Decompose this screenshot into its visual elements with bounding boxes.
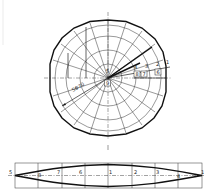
diameter-leader (62, 78, 108, 106)
sphere-top-view: SΦ70 5 9 4 3 2 1 8 7 6 (44, 12, 172, 140)
strip-label: 7 (57, 169, 60, 175)
radial-label-3: 3 (145, 63, 148, 69)
strip-label: 6 (79, 169, 82, 175)
strip-label: 2 (134, 169, 137, 175)
strip-label: 5 (9, 169, 12, 175)
strip-label: 4 (177, 173, 180, 179)
boxed-label-7: 7 (143, 71, 146, 77)
strip-label: 8 (38, 172, 41, 178)
strip-label: 1 (201, 169, 204, 175)
center-box-label: 9 (106, 80, 109, 86)
strip-label: 3 (156, 169, 159, 175)
boxed-label-8: 8 (136, 71, 139, 77)
radial-label-2: 2 (156, 61, 159, 67)
radial-label-1: 1 (166, 59, 169, 65)
center-label: 5 (106, 68, 109, 74)
technical-drawing: SΦ70 5 9 4 3 2 1 8 7 6 (0, 0, 204, 192)
boxed-label-6: 6 (157, 69, 160, 75)
radial-label-4: 4 (134, 64, 137, 70)
development-strip: 5 8 7 6 1 2 3 4 1 (8, 145, 204, 188)
strip-label: 1 (109, 169, 112, 175)
arrow-icon (62, 103, 66, 106)
